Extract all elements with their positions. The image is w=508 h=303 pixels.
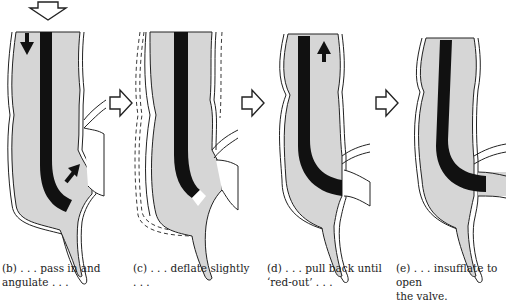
caption-panel-d: (d) . . . pull back until ‘red-out’ . . … xyxy=(267,261,382,289)
panel-c-illustration xyxy=(135,32,238,280)
insertion-arrow-icon xyxy=(30,2,66,20)
caption-panel-b: (b) . . . pass in and angulate . . . xyxy=(2,261,101,289)
step-arrow-icon xyxy=(376,90,398,116)
panel-d-illustration xyxy=(280,34,371,283)
panel-b-illustration xyxy=(8,32,106,284)
step-arrow-icon xyxy=(242,90,264,116)
caption-panel-e: (e) . . . insufflate to open the valve. xyxy=(396,261,508,303)
step-arrow-icon xyxy=(110,90,132,116)
panel-e-illustration xyxy=(415,38,507,283)
caption-panel-c: (c) . . . deflate slightly . . . xyxy=(133,261,250,289)
